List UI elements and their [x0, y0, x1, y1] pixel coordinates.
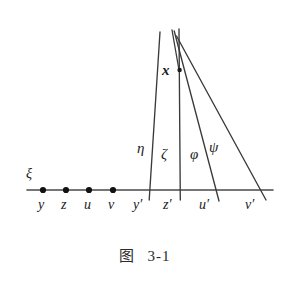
point-dot-u — [86, 187, 92, 193]
point-label-z-prime: z′ — [163, 198, 172, 212]
point-label-y: y — [38, 198, 44, 212]
apex-point — [177, 68, 181, 72]
figure-container: ξ x y z u v y′ z′ u′ v′ η ζ φ ψ 图3-1 — [0, 0, 289, 282]
ray-psi-line — [177, 36, 267, 200]
baseline-label-xi: ξ — [26, 167, 32, 181]
caption-label: 图 — [119, 248, 134, 264]
point-dot-y — [40, 187, 46, 193]
point-label-y-prime: y′ — [133, 198, 142, 212]
point-dot-v — [110, 187, 116, 193]
apex-label-x: x — [162, 63, 170, 78]
figure-drawing — [0, 0, 289, 282]
figure-caption: 图3-1 — [0, 244, 289, 265]
caption-number: 3-1 — [148, 248, 171, 264]
point-dot-z — [63, 187, 69, 193]
point-label-z: z — [61, 198, 66, 212]
ray-eta-line — [149, 32, 160, 200]
point-label-u: u — [84, 198, 91, 212]
ray-label-phi: φ — [190, 147, 198, 162]
point-label-u-prime: u′ — [199, 198, 209, 212]
point-label-v: v — [108, 198, 114, 212]
ray-phi-line — [174, 31, 219, 201]
ray-label-eta: η — [137, 141, 144, 156]
ray-label-psi: ψ — [209, 140, 218, 155]
point-label-v-prime: v′ — [245, 198, 254, 212]
ray-label-zeta: ζ — [161, 147, 167, 162]
